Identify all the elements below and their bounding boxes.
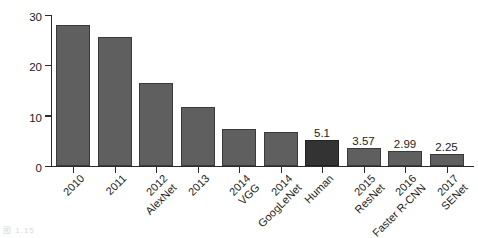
- bar-5: [264, 132, 298, 166]
- bar-chart: Top 5 error rate (%) 0102030 5.13.572.99…: [0, 0, 478, 238]
- y-tick-label-10: 10: [29, 112, 42, 124]
- x-axis-label-0: 2010: [61, 172, 87, 198]
- x-axis-label-2: 2012AlexNet: [134, 172, 179, 217]
- x-tick-6: [322, 167, 323, 173]
- x-axis-label-5: 2014GoogLeNet: [246, 172, 303, 229]
- bar-value-label-9: 2.25: [435, 141, 457, 153]
- bar-1: [98, 37, 132, 166]
- x-axis-label-3: 2013: [185, 172, 211, 198]
- bar-value-label-6: 5.1: [314, 127, 330, 139]
- x-tick-8: [405, 167, 406, 173]
- bar-0: [56, 25, 90, 166]
- bar-6: 5.1: [305, 140, 339, 166]
- y-tick-label-20: 20: [29, 61, 42, 73]
- x-tick-4: [239, 167, 240, 173]
- x-tick-0: [73, 167, 74, 173]
- y-tick-0: 0: [45, 166, 51, 167]
- bar-3: [181, 107, 215, 166]
- x-axis-label-year-6: Human: [302, 172, 336, 206]
- x-tick-2: [156, 167, 157, 173]
- x-axis-label-6: Human: [302, 172, 336, 206]
- bar-value-label-8: 2.99: [394, 138, 416, 150]
- bar-7: 3.57: [347, 148, 381, 166]
- x-axis-label-year-3: 2013: [185, 172, 211, 198]
- bar-4: [222, 129, 256, 166]
- bar-8: 2.99: [388, 151, 422, 166]
- bar-9: 2.25: [430, 154, 464, 165]
- y-tick-20: 20: [45, 65, 51, 66]
- x-axis-label-9: 2017SENet: [429, 172, 469, 212]
- caption-remnant: 图 1.15: [3, 224, 35, 235]
- bar-2: [139, 83, 173, 165]
- x-axis-label-year-1: 2011: [103, 172, 128, 197]
- y-tick-30: 30: [45, 15, 51, 16]
- bar-value-label-7: 3.57: [352, 135, 374, 147]
- y-tick-label-0: 0: [36, 162, 42, 174]
- y-tick-10: 10: [45, 115, 51, 116]
- x-tick-9: [447, 167, 448, 173]
- x-axis-label-year-0: 2010: [61, 172, 87, 198]
- x-tick-5: [281, 167, 282, 173]
- x-tick-7: [364, 167, 365, 173]
- x-axis-label-1: 2011: [103, 172, 129, 198]
- x-tick-1: [115, 167, 116, 173]
- x-tick-3: [198, 167, 199, 173]
- y-tick-label-30: 30: [29, 11, 42, 23]
- y-axis-line: [51, 15, 52, 167]
